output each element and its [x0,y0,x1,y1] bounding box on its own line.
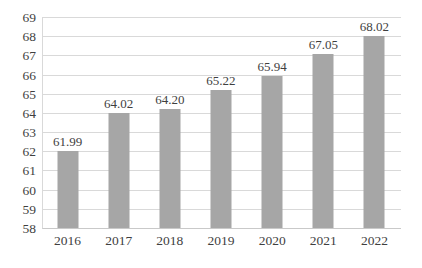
bar-slot: 65.22 [195,17,246,228]
x-axis-tick-label: 2016 [42,234,93,248]
bar[interactable] [364,36,385,228]
bar-value-label: 65.94 [258,60,287,73]
x-axis-tick-label: 2022 [349,234,400,248]
y-axis-tick-label: 67 [2,49,36,63]
y-axis-tick-label: 66 [2,69,36,83]
y-axis-tick-label: 69 [2,11,36,25]
bar-slot: 67.05 [298,17,349,228]
x-axis-tick-label: 2020 [247,234,298,248]
y-axis-tick-label: 62 [2,145,36,159]
y-axis-tick-label: 68 [2,30,36,44]
x-axis-tick-label: 2018 [144,234,195,248]
bar-slot: 65.94 [247,17,298,228]
bar-slot: 64.02 [93,17,144,228]
y-axis-tick-label: 60 [2,184,36,198]
bar-slot: 64.20 [144,17,195,228]
bar[interactable] [210,90,231,228]
bar[interactable] [108,113,129,228]
bar-chart: 69686766656463626160595861.99201664.0220… [0,0,422,268]
bar-value-label: 65.22 [206,74,235,87]
bar[interactable] [262,76,283,228]
bar[interactable] [159,109,180,228]
bar-slot: 68.02 [349,17,400,228]
bar[interactable] [57,151,78,228]
x-axis-tick-label: 2021 [298,234,349,248]
x-axis-tick-label: 2017 [93,234,144,248]
bar-value-label: 68.02 [360,20,389,33]
y-axis-tick-label: 59 [2,203,36,217]
bar[interactable] [313,54,334,228]
bar-value-label: 61.99 [53,135,82,148]
bar-slot: 61.99 [42,17,93,228]
bar-value-label: 64.20 [155,93,184,106]
y-axis-tick-label: 58 [2,222,36,236]
x-axis-tick-label: 2019 [195,234,246,248]
bar-value-label: 67.05 [309,38,338,51]
y-axis-tick-label: 65 [2,88,36,102]
y-axis-tick-label: 61 [2,164,36,178]
bar-value-label: 64.02 [104,97,133,110]
y-axis-tick-label: 64 [2,107,36,121]
y-axis-tick-label: 63 [2,126,36,140]
